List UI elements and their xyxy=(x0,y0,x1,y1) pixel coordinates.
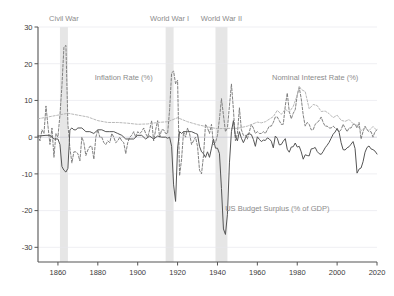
series-line-0 xyxy=(38,45,377,175)
world-war-ii-band xyxy=(215,27,227,262)
world-war-i-band-label: World War I xyxy=(150,14,189,23)
x-tick-label-2000: 2000 xyxy=(329,268,346,277)
civil-war-band-label: Civil War xyxy=(49,14,79,23)
gridlines xyxy=(38,27,377,247)
x-tick-label-1860: 1860 xyxy=(50,268,67,277)
series-line-2 xyxy=(38,121,377,235)
tick-labels: 3020100-10-20-30186018801900192019401960… xyxy=(22,23,386,277)
x-tick-label-1960: 1960 xyxy=(249,268,266,277)
x-tick-label-1940: 1940 xyxy=(209,268,226,277)
y-tick-label--10: -10 xyxy=(22,170,33,179)
nominal-interest-rate-label: Nominal Interest Rate (%) xyxy=(272,73,359,82)
chart-svg: 3020100-10-20-30186018801900192019401960… xyxy=(0,0,394,296)
shaded-war-bands xyxy=(60,27,228,262)
y-tick-label-20: 20 xyxy=(24,60,32,69)
x-tick-label-1880: 1880 xyxy=(89,268,106,277)
series-line-1 xyxy=(38,86,377,130)
y-tick-label--30: -30 xyxy=(22,243,33,252)
x-tick-label-2020: 2020 xyxy=(369,268,386,277)
inflation-rate-label: Inflation Rate (%) xyxy=(95,73,153,82)
axes xyxy=(35,27,378,266)
us-budget-surplus-label: US Budget Surplus (% of GDP) xyxy=(225,204,330,213)
x-tick-label-1980: 1980 xyxy=(289,268,306,277)
y-tick-label--20: -20 xyxy=(22,206,33,215)
y-tick-label-0: 0 xyxy=(28,133,32,142)
war-band-labels: Civil WarWorld War IWorld War II xyxy=(49,14,242,23)
y-tick-label-30: 30 xyxy=(24,23,32,32)
chart-figure: 3020100-10-20-30186018801900192019401960… xyxy=(0,0,394,296)
world-war-i-band xyxy=(166,27,174,262)
world-war-ii-band-label: World War II xyxy=(201,14,242,23)
x-tick-label-1920: 1920 xyxy=(169,268,186,277)
x-tick-label-1900: 1900 xyxy=(129,268,146,277)
y-tick-label-10: 10 xyxy=(24,96,32,105)
